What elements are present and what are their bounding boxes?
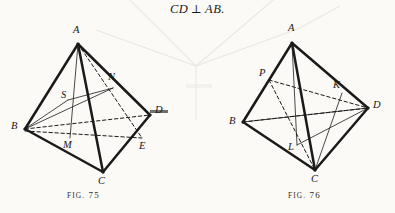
fig76-vertex-label-D: D bbox=[373, 100, 381, 111]
fig76-vertex-label-A: A bbox=[288, 23, 294, 34]
figure-76-drawing bbox=[0, 0, 395, 213]
scanned-textbook-page: CD⊥AB. bbox=[0, 0, 395, 213]
fig76-vertex-label-C: C bbox=[311, 174, 318, 185]
figure-76-caption-number: 76 bbox=[310, 190, 321, 200]
fig76-vertex-label-P: P bbox=[259, 68, 265, 79]
fig76-vertex-label-L: L bbox=[288, 142, 294, 153]
figure-76-caption: FIG. 76 bbox=[288, 190, 321, 200]
fig76-vertex-label-B: B bbox=[229, 116, 235, 127]
figure-76-caption-word: FIG. bbox=[288, 191, 306, 200]
fig76-vertex-label-K: K bbox=[333, 80, 340, 91]
